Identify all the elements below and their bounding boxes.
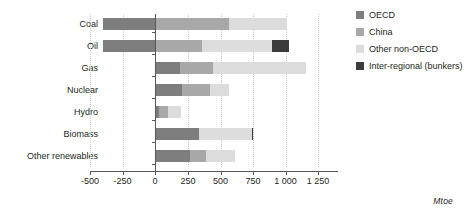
bar-segment-gas-oecd: [156, 62, 180, 74]
x-axis-line: [90, 171, 338, 172]
legend-item-other-non-oecd: Other non-OECD: [356, 44, 463, 54]
row-tick-coal: [152, 32, 156, 33]
legend-item-china: China: [356, 27, 463, 37]
legend-swatch-bunkers: [356, 62, 364, 70]
legend-swatch-other-non-oecd: [356, 45, 364, 53]
bar-segment-nuclear-china: [182, 84, 210, 96]
x-tick-label-1250: 1 250: [307, 176, 330, 187]
bar-segment-other-renewables-other-non-oecd: [206, 150, 235, 162]
zero-axis-line: [155, 14, 156, 171]
gridline-1000: [286, 14, 287, 167]
legend-item-bunkers: Inter-regional (bunkers): [356, 61, 463, 71]
row-tick-nuclear: [152, 98, 156, 99]
bar-segment-coal-oecd: [103, 18, 156, 30]
x-tick-label-500: 500: [213, 176, 228, 187]
bar-segment-oil-china: [156, 40, 202, 52]
bar-segment-coal-other-non-oecd: [229, 18, 288, 30]
x-axis-unit-label: Mtoe: [433, 196, 453, 206]
x-tick-250: [188, 171, 189, 175]
legend-item-oecd: OECD: [356, 10, 463, 20]
category-label-hydro: Hydro: [74, 107, 98, 117]
bar-segment-biomass-oecd: [156, 128, 199, 140]
x-tick-label-750: 750: [245, 176, 260, 187]
category-label-oil: Oil: [87, 41, 98, 51]
x-tick-1000: [286, 171, 287, 175]
legend-label-other-non-oecd: Other non-OECD: [369, 44, 438, 54]
x-tick-500: [221, 171, 222, 175]
gridline-1250: [318, 14, 319, 167]
gridline-minus500: [90, 14, 91, 167]
category-label-biomass: Biomass: [63, 129, 98, 139]
x-tick-label-250: 250: [180, 176, 195, 187]
gridline-750: [253, 14, 254, 167]
legend-label-china: China: [369, 27, 393, 37]
bar-segment-oil-other-non-oecd: [202, 40, 272, 52]
x-tick-0: [155, 171, 156, 175]
chart-legend: OECD China Other non-OECD Inter-regional…: [356, 10, 463, 78]
x-tick-label-minus500: -500: [81, 176, 99, 187]
bar-segment-biomass-other-non-oecd: [199, 128, 252, 140]
bar-segment-oil-bunkers: [272, 40, 289, 52]
row-tick-oil: [152, 54, 156, 55]
legend-swatch-oecd: [356, 11, 364, 19]
bar-segment-hydro-other-non-oecd: [168, 106, 181, 118]
category-label-nuclear: Nuclear: [67, 85, 98, 95]
x-tick-label-1000: 1 000: [274, 176, 297, 187]
bar-segment-nuclear-oecd: [156, 84, 182, 96]
legend-swatch-china: [356, 28, 364, 36]
x-tick-minus250: [123, 171, 124, 175]
bar-segment-hydro-china: [159, 106, 168, 118]
bar-segment-gas-china: [180, 62, 214, 74]
legend-label-oecd: OECD: [369, 10, 395, 20]
x-tick-label-minus250: -250: [113, 176, 131, 187]
bar-segment-nuclear-other-non-oecd: [210, 84, 230, 96]
row-tick-hydro: [152, 120, 156, 121]
gridline-minus250: [123, 14, 124, 167]
bar-segment-gas-other-non-oecd: [213, 62, 306, 74]
x-tick-1250: [318, 171, 319, 175]
bar-segment-coal-china: [156, 18, 229, 30]
row-tick-biomass: [152, 142, 156, 143]
x-tick-750: [253, 171, 254, 175]
row-tick-other-renewables: [152, 164, 156, 165]
y-axis-category-labels: Coal Oil Gas Nuclear Hydro Biomass Other…: [0, 0, 98, 220]
bar-segment-oil-oecd: [103, 40, 156, 52]
category-label-other-renewables: Other renewables: [27, 151, 98, 161]
row-tick-gas: [152, 76, 156, 77]
bar-segment-other-renewables-oecd: [156, 150, 191, 162]
category-label-coal: Coal: [79, 19, 98, 29]
chart-container: Coal Oil Gas Nuclear Hydro Biomass Other…: [0, 0, 469, 220]
bar-segment-biomass-bunkers: [252, 128, 254, 140]
x-tick-label-0: 0: [152, 176, 157, 187]
legend-label-bunkers: Inter-regional (bunkers): [369, 61, 463, 71]
x-tick-minus500: [90, 171, 91, 175]
bar-segment-other-renewables-china: [190, 150, 206, 162]
